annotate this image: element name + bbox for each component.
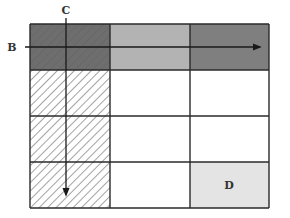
label-b: B [7, 41, 16, 54]
cell-r4-c2 [110, 162, 190, 208]
label-d: D [224, 179, 234, 192]
cell-r3-c2 [110, 116, 190, 162]
grid-diagram: B C D [0, 0, 290, 218]
cell-r3-c3 [190, 116, 269, 162]
hatch-r4-c1 [30, 162, 110, 208]
cell-r2-c2 [110, 70, 190, 116]
hatch-r3-c1 [30, 116, 110, 162]
cell-r2-c3 [190, 70, 269, 116]
hatch-r2-c1 [30, 70, 110, 116]
label-c: C [62, 4, 71, 17]
